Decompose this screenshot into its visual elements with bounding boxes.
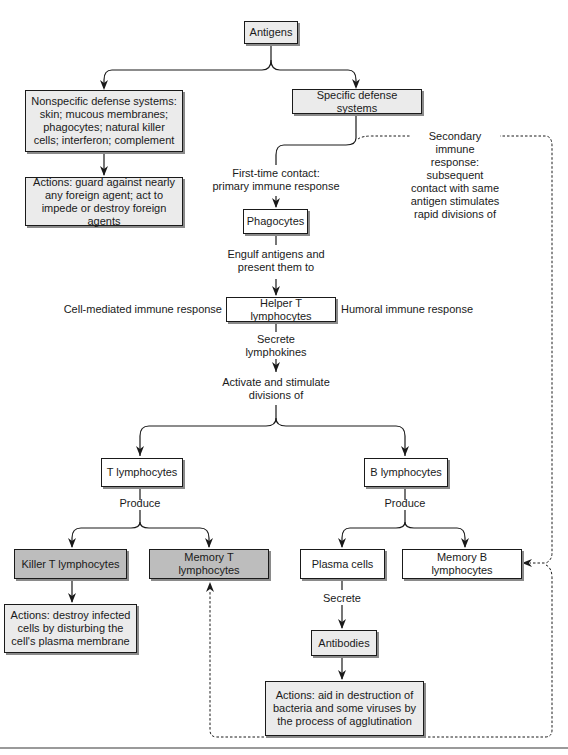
memory-t-node: Memory T lymphocytes	[149, 549, 269, 579]
killer-actions-label: Actions: destroy infected cells by distu…	[9, 609, 132, 648]
nonspecific-defense-label: Nonspecific defense systems: skin; mucou…	[30, 95, 178, 147]
helper-t-node: Helper T lymphocytes	[226, 297, 336, 322]
antibody-actions-label: Actions: aid in destruction of bacteria …	[270, 689, 419, 728]
nonspecific-defense-node: Nonspecific defense systems: skin; mucou…	[25, 90, 183, 152]
t-lymphocytes-label: T lymphocytes	[107, 466, 178, 479]
phagocytes-label: Phagocytes	[247, 215, 304, 228]
specific-defense-node: Specific defense systems	[292, 89, 422, 114]
secrete-lymphokines-label: Secrete lymphokines	[231, 333, 321, 359]
antibodies-label: Antibodies	[318, 637, 369, 650]
humoral-label: Humoral immune response	[341, 303, 481, 316]
activate-label: Activate and stimulate divisions of	[216, 376, 336, 402]
phagocytes-node: Phagocytes	[243, 209, 308, 234]
secondary-response-label: Secondary immune response: subsequent co…	[410, 130, 500, 221]
secrete-label: Secrete	[318, 592, 366, 605]
killer-t-node: Killer T lymphocytes	[14, 549, 127, 579]
cell-mediated-label: Cell-mediated immune response	[62, 303, 222, 316]
specific-defense-label: Specific defense systems	[297, 89, 417, 115]
nonspecific-actions-node: Actions: guard against nearly any foreig…	[25, 177, 183, 226]
b-lymphocytes-label: B lymphocytes	[370, 466, 442, 479]
produce-t-label: Produce	[110, 497, 170, 510]
engulf-label: Engulf antigens and present them to	[216, 248, 336, 274]
memory-b-label: Memory B lymphocytes	[407, 551, 517, 577]
plasma-cells-node: Plasma cells	[300, 549, 385, 579]
b-lymphocytes-node: B lymphocytes	[364, 458, 448, 487]
helper-t-label: Helper T lymphocytes	[231, 297, 331, 323]
first-contact-label: First-time contact: primary immune respo…	[210, 167, 342, 193]
antigens-label: Antigens	[250, 26, 293, 39]
memory-t-label: Memory T lymphocytes	[154, 551, 264, 577]
plasma-cells-label: Plasma cells	[312, 558, 374, 571]
antigens-node: Antigens	[244, 21, 298, 44]
memory-b-node: Memory B lymphocytes	[402, 549, 522, 579]
bottom-divider	[0, 747, 568, 749]
killer-t-label: Killer T lymphocytes	[21, 558, 119, 571]
antibodies-node: Antibodies	[311, 630, 377, 656]
antibody-actions-node: Actions: aid in destruction of bacteria …	[265, 681, 424, 736]
killer-actions-node: Actions: destroy infected cells by distu…	[4, 604, 137, 653]
produce-b-label: Produce	[375, 497, 435, 510]
t-lymphocytes-node: T lymphocytes	[101, 458, 183, 487]
nonspecific-actions-label: Actions: guard against nearly any foreig…	[30, 176, 178, 228]
